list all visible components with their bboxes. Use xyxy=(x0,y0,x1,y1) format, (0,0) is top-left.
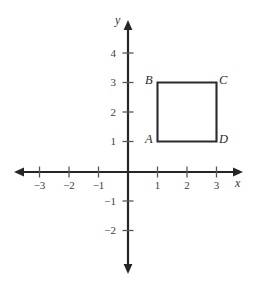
y-tick-label-2: 2 xyxy=(98,107,116,118)
vertex-label-c: C xyxy=(219,74,227,86)
x-axis-arrow-left-icon xyxy=(14,168,24,177)
vertex-label-b: B xyxy=(145,74,153,86)
y-axis-arrow-up-icon xyxy=(124,20,133,30)
y-tick-label-3: 3 xyxy=(98,77,116,88)
y-axis-arrow-down-icon xyxy=(124,264,133,274)
y-axis xyxy=(124,20,133,274)
x-tick-label-neg3: −3 xyxy=(30,180,50,191)
vertex-label-a: A xyxy=(145,133,153,145)
x-tick-label-3: 3 xyxy=(207,180,227,191)
y-tick-label-1: 1 xyxy=(98,136,116,147)
x-tick-label-1: 1 xyxy=(148,180,168,191)
y-tick-label-neg1: −1 xyxy=(94,196,116,207)
y-axis-label: y xyxy=(115,14,120,26)
square-abcd xyxy=(158,83,217,142)
x-tick-label-neg1: −1 xyxy=(89,180,109,191)
x-axis-label: x xyxy=(235,177,240,189)
coordinate-plane-figure: −3 −2 −1 1 2 3 4 3 2 1 −1 −2 x y A B C D xyxy=(0,0,259,283)
vertex-label-d: D xyxy=(219,133,228,145)
y-tick-label-4: 4 xyxy=(98,48,116,59)
y-tick-label-neg2: −2 xyxy=(94,225,116,236)
x-tick-label-neg2: −2 xyxy=(59,180,79,191)
x-tick-label-2: 2 xyxy=(177,180,197,191)
